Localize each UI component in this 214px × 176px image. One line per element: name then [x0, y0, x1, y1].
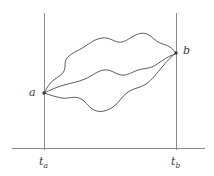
endpoint-marker-b — [174, 51, 177, 54]
endpoint-label-b: b — [183, 45, 190, 56]
tick-label-ta: ta — [39, 156, 48, 170]
tick-label-tb-subscript: b — [175, 161, 180, 170]
endpoint-label-a: a — [29, 87, 36, 98]
endpoint-marker-a — [42, 91, 45, 94]
path-lower — [44, 53, 176, 111]
path-integral-figure: a b ta tb — [0, 0, 214, 176]
tick-label-tb: tb — [171, 156, 180, 170]
path-upper — [44, 33, 176, 93]
tick-label-ta-subscript: a — [43, 161, 47, 170]
path-middle — [44, 53, 176, 93]
